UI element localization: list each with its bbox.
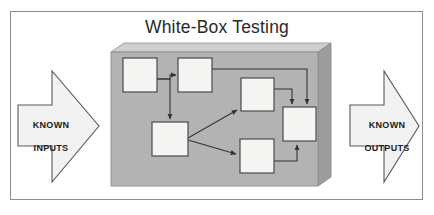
known-inputs-label: KNOWN INPUTS [19, 108, 83, 166]
node-bottom-left [152, 122, 188, 156]
known-outputs-label-line2: OUTPUTS [352, 143, 422, 155]
known-inputs-label-line1: KNOWN [19, 120, 83, 132]
known-outputs-label: KNOWN OUTPUTS [352, 108, 422, 166]
node-top-left [123, 58, 157, 92]
system-box-top-face [111, 43, 331, 52]
figure-root: White-Box Testing [0, 0, 434, 215]
node-bottom-mid [240, 139, 274, 173]
node-top-mid [178, 58, 212, 92]
node-far-right [283, 107, 316, 141]
system-box-side-face [318, 43, 331, 186]
node-mid-right [241, 78, 274, 111]
known-outputs-label-line1: KNOWN [352, 120, 422, 132]
known-inputs-label-line2: INPUTS [19, 143, 83, 155]
